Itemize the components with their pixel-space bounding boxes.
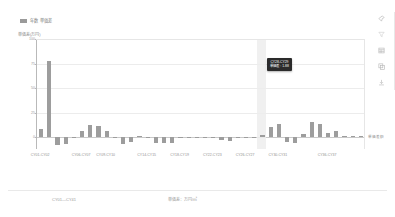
bar[interactable] <box>105 131 109 137</box>
bar[interactable] <box>228 137 232 140</box>
bar[interactable] <box>113 137 117 138</box>
bar[interactable] <box>72 137 76 138</box>
bar[interactable] <box>334 131 338 137</box>
bar[interactable] <box>211 137 215 138</box>
download-icon[interactable] <box>377 78 386 87</box>
bar[interactable] <box>55 137 59 144</box>
bar[interactable] <box>293 137 297 142</box>
series-right-label: 単価差額 <box>368 135 384 139</box>
bar[interactable] <box>277 124 281 137</box>
plot-area: 0255075100CY28-CY29単価差 : 1.88単価差額 <box>36 39 365 149</box>
chart-widget: 年数 単価差 単価差(万円) 0255075100CY28-CY29単価差 : … <box>0 0 395 217</box>
x-tick-label: CY01-CY02 <box>31 153 50 157</box>
table-icon[interactable] <box>377 46 386 55</box>
bar[interactable] <box>260 135 264 137</box>
bar[interactable] <box>170 137 174 142</box>
bar[interactable] <box>137 136 141 137</box>
bar[interactable] <box>359 136 363 137</box>
bar[interactable] <box>203 137 207 138</box>
bar[interactable] <box>285 137 289 142</box>
chart-tooltip: CY28-CY29単価差 : 1.88 <box>267 58 291 71</box>
chart-legend[interactable]: 年数 単価差 <box>20 18 52 23</box>
bar[interactable] <box>326 133 330 137</box>
filter-icon[interactable] <box>377 30 386 39</box>
legend-swatch-icon <box>20 19 27 23</box>
bar[interactable] <box>88 125 92 137</box>
pin-icon[interactable] <box>377 14 386 23</box>
x-axis-labels: CY01-CY02CY06-CY07CY09-CY10CY14-CY15CY18… <box>36 153 365 163</box>
footer-range-label: CY01—CY41 <box>52 197 76 202</box>
x-tick-label: CY18-CY19 <box>170 153 189 157</box>
bar[interactable] <box>195 137 199 138</box>
x-tick-label: CY06-CY07 <box>72 153 91 157</box>
bar[interactable] <box>219 137 223 140</box>
bar[interactable] <box>64 137 68 144</box>
bar[interactable] <box>47 61 51 138</box>
bar[interactable] <box>318 124 322 137</box>
bar[interactable] <box>146 137 150 138</box>
footer-unit-label: 単価差：万円/㎡ <box>168 197 197 202</box>
chart-footer: CY01—CY41 単価差：万円/㎡ <box>0 194 395 214</box>
bar[interactable] <box>39 129 43 137</box>
tooltip-value: 単価差 : 1.88 <box>270 64 288 68</box>
bar[interactable] <box>129 137 133 141</box>
bar[interactable] <box>351 136 355 137</box>
footer-divider <box>8 190 387 191</box>
bar[interactable] <box>269 127 273 137</box>
bar[interactable] <box>154 137 158 143</box>
bar[interactable] <box>310 122 314 138</box>
x-tick-label: CY22-CY23 <box>203 153 222 157</box>
bar[interactable] <box>342 136 346 137</box>
bar[interactable] <box>252 137 256 138</box>
x-tick-label: CY14-CY15 <box>137 153 156 157</box>
x-tick-label: CY30-CY31 <box>269 153 288 157</box>
bar[interactable] <box>162 137 166 142</box>
bar-series <box>37 39 365 149</box>
bar[interactable] <box>80 131 84 137</box>
bar[interactable] <box>236 137 240 138</box>
chart-toolbar[interactable] <box>373 14 389 87</box>
bar[interactable] <box>178 137 182 138</box>
x-tick-label: CY09-CY10 <box>96 153 115 157</box>
bar[interactable] <box>244 137 248 138</box>
x-tick-label: CY36-CY37 <box>318 153 337 157</box>
bar[interactable] <box>121 137 125 143</box>
bar[interactable] <box>187 137 191 138</box>
copy-icon[interactable] <box>377 62 386 71</box>
bar[interactable] <box>301 134 305 137</box>
x-tick-label: CY26-CY27 <box>236 153 255 157</box>
chart-card: 年数 単価差 単価差(万円) 0255075100CY28-CY29単価差 : … <box>8 8 387 194</box>
legend-label: 年数 単価差 <box>30 18 52 23</box>
bar[interactable] <box>96 126 100 137</box>
